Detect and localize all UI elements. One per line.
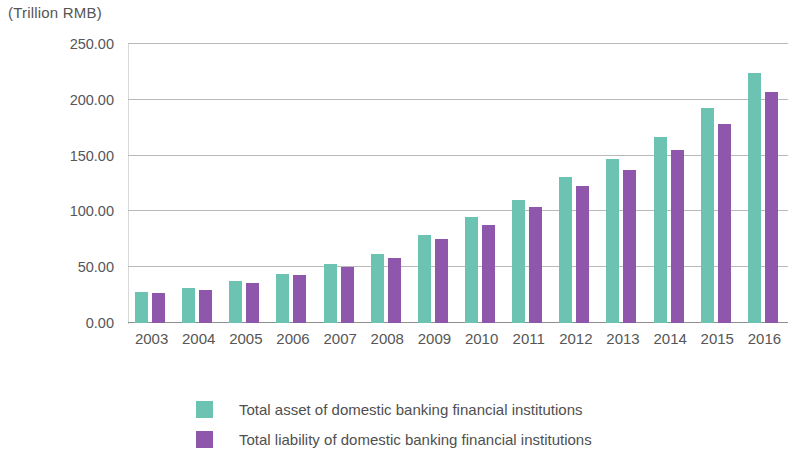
bar-liability-2005 — [246, 283, 259, 323]
bar-asset-2005 — [229, 281, 242, 323]
x-tick-label-2010: 2010 — [459, 330, 505, 347]
x-tick-label-2011: 2011 — [506, 330, 552, 347]
bar-asset-2013 — [606, 159, 619, 323]
x-tick-label-2014: 2014 — [647, 330, 693, 347]
bar-group-2010 — [458, 44, 505, 323]
y-axis-tick-labels: 250.00200.00150.00100.0050.000.00 — [42, 44, 114, 323]
bar-group-2015 — [694, 44, 741, 323]
bar-liability-2007 — [341, 267, 354, 323]
bar-liability-2008 — [388, 258, 401, 323]
bar-liability-2014 — [671, 150, 684, 323]
y-tick-label: 250.00 — [44, 36, 114, 52]
bar-asset-2006 — [276, 274, 289, 323]
bar-liability-2009 — [435, 239, 448, 323]
bar-liability-2006 — [293, 275, 306, 323]
legend-item-liability[interactable]: Total liability of domestic banking fina… — [196, 424, 716, 454]
x-tick-label-2005: 2005 — [223, 330, 269, 347]
plot-area — [128, 44, 788, 323]
y-tick-label: 200.00 — [44, 92, 114, 108]
legend-label: Total asset of domestic banking financia… — [239, 401, 583, 418]
bar-liability-2015 — [718, 124, 731, 323]
bar-asset-2003 — [135, 292, 148, 323]
bar-liability-2011 — [529, 207, 542, 323]
bar-asset-2008 — [371, 254, 384, 323]
bar-group-2011 — [505, 44, 552, 323]
legend-swatch-icon — [196, 401, 213, 418]
bar-liability-2012 — [576, 186, 589, 323]
bar-group-2006 — [269, 44, 316, 323]
bar-liability-2013 — [623, 170, 636, 323]
bar-liability-2004 — [199, 290, 212, 323]
bar-group-2007 — [317, 44, 364, 323]
bar-group-2004 — [175, 44, 222, 323]
x-tick-label-2009: 2009 — [411, 330, 457, 347]
bar-asset-2007 — [324, 264, 337, 323]
bars-layer — [128, 44, 788, 323]
legend-item-asset[interactable]: Total asset of domestic banking financia… — [196, 394, 716, 424]
x-tick-label-2008: 2008 — [364, 330, 410, 347]
legend-swatch-icon — [196, 431, 213, 448]
bar-asset-2016 — [748, 73, 761, 323]
x-tick-label-2012: 2012 — [553, 330, 599, 347]
unit-caption: (Trillion RMB) — [8, 4, 102, 21]
bar-asset-2004 — [182, 288, 195, 323]
x-tick-label-2006: 2006 — [270, 330, 316, 347]
bar-asset-2012 — [559, 177, 572, 323]
bar-group-2008 — [364, 44, 411, 323]
bar-liability-2016 — [765, 92, 778, 323]
bar-liability-2010 — [482, 225, 495, 323]
bar-group-2003 — [128, 44, 175, 323]
bar-asset-2011 — [512, 200, 525, 323]
y-tick-label: 0.00 — [44, 315, 114, 331]
x-tick-label-2003: 2003 — [129, 330, 175, 347]
x-tick-label-2007: 2007 — [317, 330, 363, 347]
x-tick-label-2013: 2013 — [600, 330, 646, 347]
x-tick-label-2004: 2004 — [176, 330, 222, 347]
bar-group-2009 — [411, 44, 458, 323]
bar-asset-2014 — [654, 137, 667, 323]
legend-label: Total liability of domestic banking fina… — [239, 431, 592, 448]
y-tick-label: 100.00 — [44, 203, 114, 219]
bar-liability-2003 — [152, 293, 165, 323]
bar-asset-2009 — [418, 235, 431, 323]
bar-group-2016 — [741, 44, 788, 323]
y-tick-label: 50.00 — [44, 259, 114, 275]
x-tick-label-2015: 2015 — [694, 330, 740, 347]
x-tick-label-2016: 2016 — [741, 330, 787, 347]
x-axis-tick-labels: 2003200420052006200720082009201020112012… — [128, 330, 788, 354]
bar-group-2014 — [647, 44, 694, 323]
bar-group-2005 — [222, 44, 269, 323]
bar-asset-2010 — [465, 217, 478, 323]
bar-asset-2015 — [701, 108, 714, 323]
bar-chart: (Trillion RMB) 250.00200.00150.00100.005… — [0, 0, 797, 455]
y-tick-label: 150.00 — [44, 148, 114, 164]
bar-group-2013 — [599, 44, 646, 323]
chart-legend: Total asset of domestic banking financia… — [196, 394, 716, 454]
bar-group-2012 — [552, 44, 599, 323]
